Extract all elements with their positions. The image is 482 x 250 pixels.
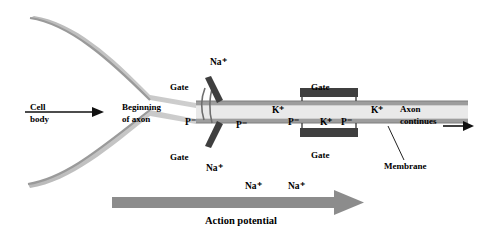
ion-p-left-outer: P⁻ — [185, 117, 196, 127]
ion-k-inside-left: K⁺ — [272, 105, 284, 115]
membrane-leader-line — [388, 126, 404, 160]
label-gate-top: Gate — [170, 83, 189, 93]
label-beginning-line2: of axon — [122, 115, 150, 125]
label-gate-right-top: Gate — [311, 83, 330, 93]
gate-right-bottom — [300, 128, 358, 137]
label-action-potential: Action potential — [205, 215, 277, 227]
action-potential-arrow — [112, 190, 364, 215]
ion-na-bottom-right: Na⁺ — [288, 181, 305, 191]
ion-p-inner-right: P⁻ — [341, 117, 352, 127]
gate-left-top — [205, 76, 223, 103]
ion-p-inner-mid: P⁻ — [288, 117, 299, 127]
label-axon-continues-line2: continues — [400, 117, 437, 127]
diagram-canvas: Cell body Beginning of axon Gate Gate Ga… — [0, 0, 482, 250]
ion-na-bottom-left: Na⁺ — [206, 163, 223, 173]
ion-na-top-left: Na⁺ — [210, 57, 227, 67]
label-cell-body-line1: Cell — [30, 103, 46, 113]
ion-k-right: K⁺ — [371, 105, 383, 115]
label-gate-bottom: Gate — [170, 153, 189, 163]
ion-na-bottom-mid: Na⁺ — [245, 181, 262, 191]
gate-left-bottom — [205, 121, 223, 148]
label-axon-continues-line1: Axon — [400, 105, 421, 115]
label-beginning-line1: Beginning — [122, 103, 161, 113]
label-membrane: Membrane — [384, 162, 427, 172]
ion-p-inner-left: P⁻ — [236, 120, 247, 130]
label-cell-body-line2: body — [30, 115, 49, 125]
label-gate-right-bottom: Gate — [311, 151, 330, 161]
ion-k-inside-mid: K⁺ — [320, 117, 332, 127]
